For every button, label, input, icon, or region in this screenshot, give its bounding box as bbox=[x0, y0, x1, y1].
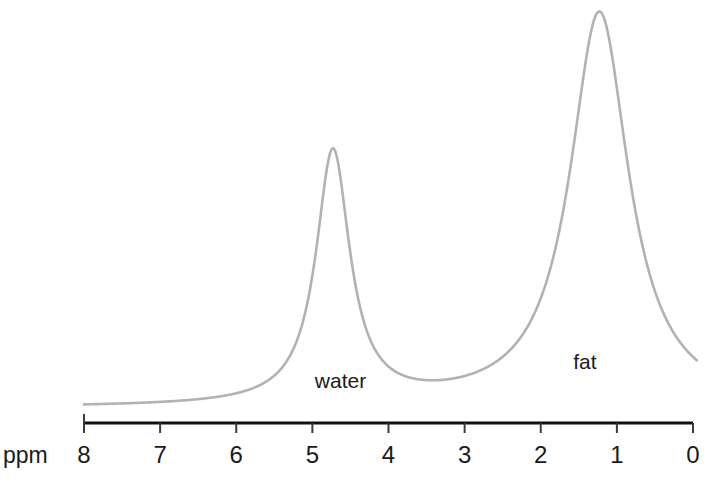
axis-unit-label: ppm bbox=[3, 442, 48, 468]
x-axis-tick-label-3: 3 bbox=[458, 441, 471, 468]
nmr-spectrum-figure: 876543210 ppm water fat bbox=[0, 0, 716, 482]
peak-label-water: water bbox=[314, 369, 366, 392]
x-axis-tick-label-0: 0 bbox=[686, 441, 699, 468]
x-axis-tick-label-7: 7 bbox=[153, 441, 166, 468]
x-axis-tick-label-5: 5 bbox=[306, 441, 319, 468]
x-axis-tick-label-4: 4 bbox=[382, 441, 395, 468]
x-axis-tick-label-6: 6 bbox=[230, 441, 243, 468]
x-axis-tick-label-8: 8 bbox=[77, 441, 90, 468]
x-axis-tick-label-1: 1 bbox=[610, 441, 623, 468]
figure-background bbox=[0, 0, 716, 482]
x-axis-tick-label-2: 2 bbox=[534, 441, 547, 468]
peak-label-fat: fat bbox=[573, 350, 597, 373]
